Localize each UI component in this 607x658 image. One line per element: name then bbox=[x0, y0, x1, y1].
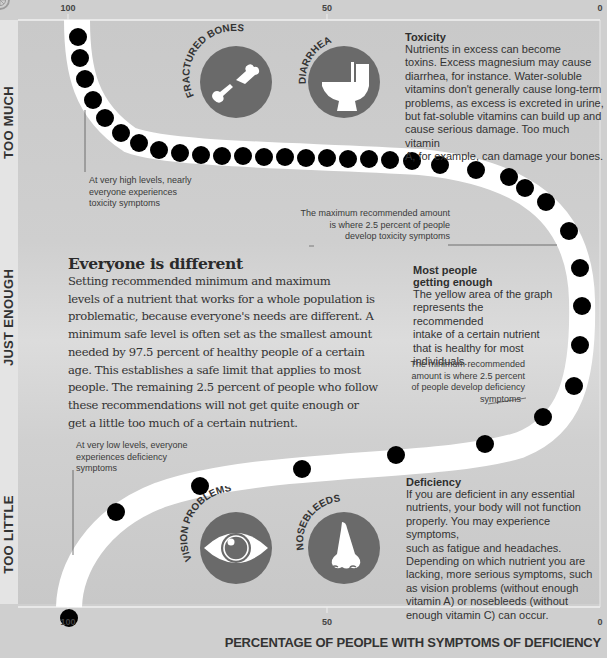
most-people-panel: Most people getting enough The yellow ar… bbox=[413, 264, 553, 368]
pill-markers bbox=[0, 0, 9, 9]
top-tick-50: 50 bbox=[312, 3, 342, 13]
toxicity-panel: Toxicity Nutrients in excess can become … bbox=[405, 31, 605, 164]
everyone-different-body: Setting recommended minimum and maximum … bbox=[68, 273, 408, 432]
most-people-body: The yellow area of the graph represents … bbox=[413, 288, 553, 368]
min-recommended-annotation: The minimum recommended amount is where … bbox=[395, 359, 525, 405]
svg-text:NOSEBLEEDS: NOSEBLEEDS bbox=[294, 492, 341, 551]
infographic: 100 50 0 100 50 0 PERCENTAGE OF PEOPLE W… bbox=[0, 0, 607, 658]
bottom-tick-50: 50 bbox=[312, 617, 342, 627]
high-levels-annotation: At very high levels, nearly everyone exp… bbox=[89, 175, 192, 210]
deficiency-panel: Deficiency If you are deficient in any e… bbox=[406, 476, 606, 622]
deficiency-body: If you are deficient in any essential nu… bbox=[406, 488, 606, 622]
vision-problems-label: VISION PROBLEMS bbox=[178, 486, 288, 566]
max-recommended-annotation: The maximum recommended amount is where … bbox=[290, 208, 450, 243]
deficiency-title: Deficiency bbox=[406, 476, 606, 488]
svg-text:DIARRHEA: DIARRHEA bbox=[297, 34, 333, 84]
nosebleeds-label: NOSEBLEEDS bbox=[292, 488, 382, 558]
x-axis-title: PERCENTAGE OF PEOPLE WITH SYMPTOMS OF DE… bbox=[225, 635, 601, 650]
top-tick-0: 0 bbox=[585, 3, 607, 13]
everyone-different-title: Everyone is different bbox=[68, 254, 408, 273]
fractured-bones-label: FRACTURED BONES bbox=[180, 20, 290, 100]
top-tick-100: 100 bbox=[53, 3, 83, 13]
most-people-title: Most people getting enough bbox=[413, 264, 553, 288]
band-too-little: TOO LITTLE bbox=[1, 465, 16, 605]
svg-text:FRACTURED BONES: FRACTURED BONES bbox=[180, 22, 245, 100]
diarrhea-label: DIARRHEA bbox=[292, 22, 382, 92]
bottom-tick-100: 100 bbox=[53, 617, 83, 627]
toxicity-title: Toxicity bbox=[405, 31, 605, 43]
everyone-different-panel: Everyone is different Setting recommende… bbox=[68, 254, 408, 432]
svg-text:VISION PROBLEMS: VISION PROBLEMS bbox=[178, 486, 232, 563]
low-levels-annotation: At very low levels, everyone experiences… bbox=[76, 440, 188, 475]
band-too-much: TOO MUCH bbox=[1, 53, 16, 193]
band-just-enough: JUST ENOUGH bbox=[1, 248, 16, 388]
toxicity-body: Nutrients in excess can become toxins. E… bbox=[405, 43, 605, 164]
